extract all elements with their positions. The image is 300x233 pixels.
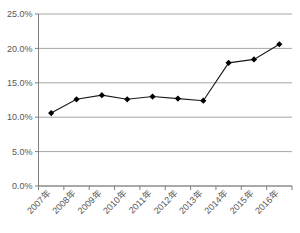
line-chart: 0.0%5.0%10.0%15.0%20.0%25.0% 2007年2008年2… xyxy=(0,0,300,233)
y-axis-tick-label: 25.0% xyxy=(7,9,33,19)
y-axis-tick-label: 20.0% xyxy=(7,44,33,54)
chart-container: 0.0%5.0%10.0%15.0%20.0%25.0% 2007年2008年2… xyxy=(0,0,300,233)
y-axis-tick-label: 10.0% xyxy=(7,112,33,122)
y-axis-tick-label: 5.0% xyxy=(12,147,33,157)
y-axis-tick-label: 15.0% xyxy=(7,78,33,88)
y-axis-tick-label: 0.0% xyxy=(12,181,33,191)
